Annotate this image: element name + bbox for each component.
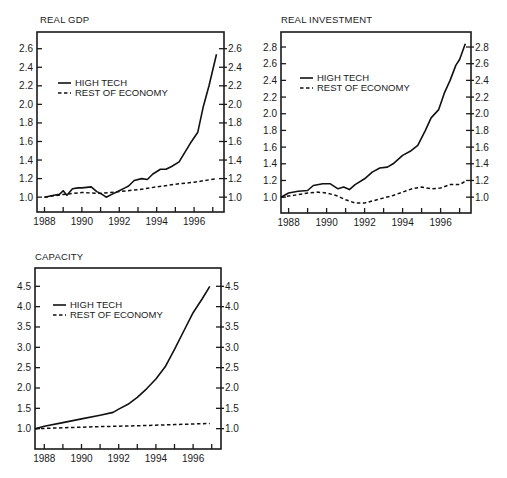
y-tick-label-right: 1.8 bbox=[475, 125, 489, 136]
y-tick-label-left: 1.2 bbox=[19, 173, 33, 184]
y-tick-label-right: 1.0 bbox=[225, 423, 239, 434]
series-high-tech bbox=[35, 286, 210, 428]
y-tick-label-right: 2.6 bbox=[475, 58, 489, 69]
x-tick-label: 1988 bbox=[33, 216, 56, 227]
x-tick-label: 1992 bbox=[108, 453, 131, 464]
y-tick-label-left: 1.8 bbox=[263, 125, 277, 136]
y-tick-label-left: 2.0 bbox=[263, 108, 277, 119]
y-tick-label-left: 1.8 bbox=[19, 117, 33, 128]
y-tick-label-left: 2.0 bbox=[19, 99, 33, 110]
x-tick-label: 1992 bbox=[353, 217, 376, 228]
y-tick-label-right: 2.0 bbox=[225, 382, 239, 393]
y-tick-label-left: 1.6 bbox=[263, 142, 277, 153]
legend: HIGH TECHREST OF ECONOMY bbox=[53, 299, 163, 320]
y-tick-label-left: 1.0 bbox=[19, 192, 33, 203]
y-tick-label-right: 4.5 bbox=[225, 281, 239, 292]
y-tick-label-left: 2.2 bbox=[19, 80, 33, 91]
y-tick-label-right: 1.0 bbox=[475, 192, 489, 203]
x-tick-label: 1990 bbox=[315, 217, 338, 228]
y-tick-label-left: 4.0 bbox=[17, 301, 31, 312]
x-tick-label: 1994 bbox=[146, 216, 169, 227]
chart-title: REAL INVESTMENT bbox=[281, 14, 372, 25]
chart-panel-real-gdp: REAL GDP1.01.01.21.21.41.41.61.61.81.82.… bbox=[19, 14, 242, 227]
y-tick-label-right: 1.2 bbox=[475, 175, 489, 186]
y-tick-label-right: 2.2 bbox=[228, 80, 242, 91]
y-tick-label-right: 2.5 bbox=[225, 362, 239, 373]
y-tick-label-left: 1.0 bbox=[263, 192, 277, 203]
y-tick-label-right: 1.6 bbox=[228, 136, 242, 147]
x-tick-label: 1994 bbox=[145, 453, 168, 464]
y-tick-label-right: 1.5 bbox=[225, 403, 239, 414]
y-tick-label-left: 2.2 bbox=[263, 92, 277, 103]
x-tick-label: 1996 bbox=[182, 453, 205, 464]
y-tick-label-left: 1.6 bbox=[19, 136, 33, 147]
y-tick-label-left: 1.5 bbox=[17, 403, 31, 414]
y-tick-label-left: 1.2 bbox=[263, 175, 277, 186]
y-tick-label-left: 1.4 bbox=[263, 158, 277, 169]
y-tick-label-right: 4.0 bbox=[225, 301, 239, 312]
y-tick-label-right: 1.4 bbox=[475, 158, 489, 169]
plot-frame bbox=[281, 32, 471, 213]
y-tick-label-left: 2.4 bbox=[263, 75, 277, 86]
y-tick-label-left: 3.5 bbox=[17, 321, 31, 332]
y-tick-label-right: 1.8 bbox=[228, 117, 242, 128]
y-tick-label-left: 4.5 bbox=[17, 281, 31, 292]
y-tick-label-right: 2.8 bbox=[475, 42, 489, 53]
series-rest-of-economy bbox=[281, 181, 465, 203]
y-tick-label-left: 1.0 bbox=[17, 423, 31, 434]
chart-panel-capacity: CAPACITY1.01.01.51.52.02.02.52.53.03.03.… bbox=[17, 251, 239, 464]
y-tick-label-left: 2.8 bbox=[263, 42, 277, 53]
figure-canvas: REAL GDP1.01.01.21.21.41.41.61.61.81.82.… bbox=[0, 0, 507, 478]
x-tick-label: 1990 bbox=[70, 453, 93, 464]
chart-panel-real-investment: REAL INVESTMENT1.01.01.21.21.41.41.61.61… bbox=[263, 14, 489, 228]
series-rest-of-economy bbox=[35, 423, 210, 428]
y-tick-label-right: 2.4 bbox=[475, 75, 489, 86]
y-tick-label-right: 1.2 bbox=[228, 173, 242, 184]
y-tick-label-right: 2.6 bbox=[228, 43, 242, 54]
legend-label-rest-of-economy: REST OF ECONOMY bbox=[70, 309, 163, 320]
x-tick-label: 1988 bbox=[277, 217, 300, 228]
x-tick-label: 1990 bbox=[71, 216, 94, 227]
y-tick-label-right: 1.0 bbox=[228, 192, 242, 203]
y-tick-label-right: 2.0 bbox=[475, 108, 489, 119]
y-tick-label-right: 1.6 bbox=[475, 142, 489, 153]
y-tick-label-left: 2.4 bbox=[19, 62, 33, 73]
y-tick-label-left: 2.6 bbox=[19, 43, 33, 54]
y-tick-label-left: 3.0 bbox=[17, 342, 31, 353]
x-tick-label: 1996 bbox=[183, 216, 206, 227]
series-high-tech bbox=[281, 44, 465, 198]
x-tick-label: 1996 bbox=[429, 217, 452, 228]
x-tick-label: 1994 bbox=[391, 217, 414, 228]
chart-title: REAL GDP bbox=[40, 14, 89, 25]
legend-label-rest-of-economy: REST OF ECONOMY bbox=[317, 82, 410, 93]
y-tick-label-right: 1.4 bbox=[228, 155, 242, 166]
y-tick-label-right: 3.0 bbox=[225, 342, 239, 353]
y-tick-label-left: 2.5 bbox=[17, 362, 31, 373]
legend: HIGH TECHREST OF ECONOMY bbox=[58, 77, 168, 98]
chart-title: CAPACITY bbox=[35, 251, 84, 262]
y-tick-label-right: 2.0 bbox=[228, 99, 242, 110]
y-tick-label-right: 2.4 bbox=[228, 62, 242, 73]
legend: HIGH TECHREST OF ECONOMY bbox=[300, 72, 410, 93]
y-tick-label-right: 3.5 bbox=[225, 321, 239, 332]
series-rest-of-economy bbox=[45, 179, 217, 198]
y-tick-label-right: 2.2 bbox=[475, 92, 489, 103]
legend-label-rest-of-economy: REST OF ECONOMY bbox=[75, 87, 168, 98]
y-tick-label-left: 2.0 bbox=[17, 382, 31, 393]
y-tick-label-left: 2.6 bbox=[263, 58, 277, 69]
x-tick-label: 1992 bbox=[108, 216, 131, 227]
series-high-tech bbox=[45, 54, 217, 197]
x-tick-label: 1988 bbox=[33, 453, 56, 464]
y-tick-label-left: 1.4 bbox=[19, 155, 33, 166]
